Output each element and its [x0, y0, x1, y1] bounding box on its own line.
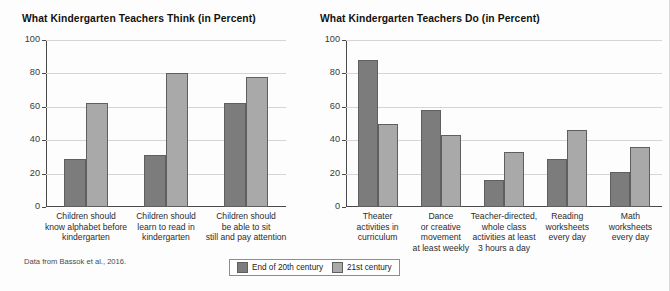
- chart-title-do: What Kindergarten Teachers Do (in Percen…: [320, 13, 540, 24]
- y-tick-label: 80: [312, 68, 340, 77]
- y-tick-label: 40: [12, 135, 40, 144]
- category-label: Children shouldbe able to sitstill and p…: [192, 211, 300, 243]
- bar-group: Readingworksheetsevery day: [536, 40, 599, 207]
- bar-21st-century: [246, 77, 268, 207]
- bar-21st-century: [630, 147, 650, 207]
- y-tick-label: 0: [12, 202, 40, 211]
- legend-label: 21st century: [347, 263, 392, 272]
- bar-21st-century: [441, 135, 461, 207]
- legend-label: End of 20th century: [252, 263, 323, 272]
- bar-group: Theateractivities incurriculum: [346, 40, 409, 207]
- bar-end-of-20th-century: [610, 172, 630, 207]
- y-tick-label: 60: [12, 102, 40, 111]
- legend: End of 20th century21st century: [229, 259, 400, 276]
- legend-item: 21st century: [332, 262, 392, 273]
- y-tick-label: 20: [312, 169, 340, 178]
- bar-end-of-20th-century: [224, 103, 246, 207]
- source-note: Data from Bassok et al., 2016.: [24, 257, 126, 266]
- bar-end-of-20th-century: [64, 159, 86, 207]
- bar-end-of-20th-century: [358, 60, 378, 207]
- legend-item: End of 20th century: [237, 262, 323, 273]
- bar-21st-century: [166, 73, 188, 207]
- y-tick-mark: [42, 207, 46, 208]
- category-label: Mathworksheetsevery day: [589, 211, 670, 243]
- bar-groups-do: Theateractivities incurriculumDanceor cr…: [346, 40, 662, 207]
- y-tick-label: 60: [312, 102, 340, 111]
- legend-swatch: [332, 262, 343, 273]
- bar-21st-century: [567, 130, 587, 207]
- y-tick-label: 80: [12, 68, 40, 77]
- y-tick-label: 20: [12, 169, 40, 178]
- y-tick-label: 0: [312, 202, 340, 211]
- plot-area-think: 020406080100 Children shouldknow alphabe…: [46, 40, 286, 207]
- y-tick-label: 100: [312, 35, 340, 44]
- legend-swatch: [237, 262, 248, 273]
- bar-end-of-20th-century: [484, 180, 504, 207]
- bar-end-of-20th-century: [421, 110, 441, 207]
- bar-group: Children shouldbe able to sitstill and p…: [206, 40, 286, 207]
- plot-area-do: 020406080100 Theateractivities incurricu…: [346, 40, 662, 207]
- chart-title-think: What Kindergarten Teachers Think (in Per…: [22, 13, 256, 24]
- y-tick-mark: [342, 207, 346, 208]
- bar-groups-think: Children shouldknow alphabet beforekinde…: [46, 40, 286, 207]
- bar-group: Mathworksheetsevery day: [599, 40, 662, 207]
- chart-panel-do: What Kindergarten Teachers Do (in Percen…: [310, 0, 670, 291]
- y-tick-label: 40: [312, 135, 340, 144]
- bar-21st-century: [504, 152, 524, 207]
- bar-group: Teacher-directed,whole classactivities a…: [472, 40, 535, 207]
- bar-group: Children shouldlearn to read inkindergar…: [126, 40, 206, 207]
- chart-panel-think: What Kindergarten Teachers Think (in Per…: [0, 0, 310, 291]
- bar-end-of-20th-century: [144, 155, 166, 207]
- bar-group: Danceor creativemovementat least weekly: [409, 40, 472, 207]
- bar-end-of-20th-century: [547, 159, 567, 207]
- figure-container: What Kindergarten Teachers Think (in Per…: [0, 0, 670, 291]
- bar-21st-century: [86, 103, 108, 207]
- bar-group: Children shouldknow alphabet beforekinde…: [46, 40, 126, 207]
- bar-21st-century: [378, 124, 398, 208]
- y-tick-label: 100: [12, 35, 40, 44]
